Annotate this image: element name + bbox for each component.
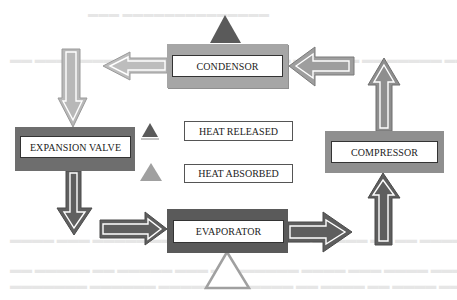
expansion-valve-label: EXPANSION VALVE [30, 142, 121, 153]
condensor-box: CONDENSOR [167, 44, 288, 88]
arrow-into-expansion-valve [58, 49, 87, 127]
compressor-label: COMPRESSOR [351, 147, 418, 158]
arrow-out-of-evaporator [288, 212, 352, 252]
legend-heat-released-icon [142, 123, 158, 137]
heat-absorbed-triangle-icon [206, 252, 249, 288]
arrow-out-of-expansion-valve [57, 171, 92, 235]
arrow-out-of-condensor [103, 52, 167, 80]
condensor-label: CONDENSOR [196, 61, 258, 72]
evaporator-label: EVAPORATOR [196, 226, 262, 237]
arrow-into-condensor [289, 47, 354, 86]
compressor-box: COMPRESSOR [325, 131, 444, 173]
evaporator-box: EVAPORATOR [167, 209, 288, 253]
heat-released-triangle-icon [210, 15, 241, 43]
legend-heat-released-label: HEAT RELEASED [184, 121, 293, 141]
legend-heat-absorbed-icon [140, 163, 162, 181]
arrow-into-compressor [368, 173, 400, 245]
legend-heat-absorbed-label: HEAT ABSORBED [184, 164, 293, 183]
expansion-valve-box: EXPANSION VALVE [15, 127, 135, 171]
arrow-out-of-compressor [368, 58, 400, 131]
legend-heat-released-text: HEAT RELEASED [199, 126, 278, 137]
arrow-into-evaporator [100, 212, 167, 245]
legend-heat-absorbed-text: HEAT ABSORBED [198, 168, 279, 179]
